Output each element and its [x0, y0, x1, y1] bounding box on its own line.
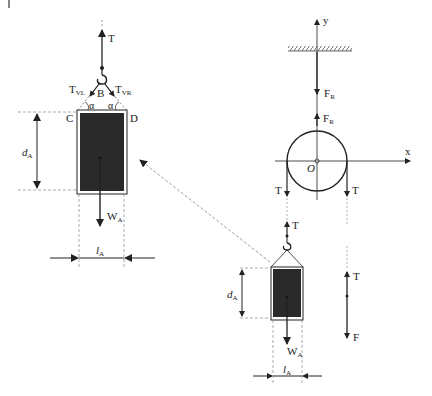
label-load-tension: T	[292, 219, 299, 231]
label-load-weight: WA	[287, 345, 302, 359]
label-width: lA	[96, 244, 104, 258]
ceiling-support	[288, 46, 352, 51]
free-body-diagram: T B TVL TVR α α C D WA dA lA	[0, 0, 432, 396]
label-tvl: TVL	[69, 83, 85, 97]
label-tvr: TVR	[115, 83, 132, 97]
label-C: C	[66, 112, 73, 124]
label-x-axis: x	[405, 145, 411, 157]
load-hook-icon	[283, 243, 290, 250]
label-reaction-down: FR	[324, 87, 335, 101]
label-D: D	[130, 112, 138, 124]
left-detail: T B TVL TVR α α C D WA dA lA	[18, 20, 155, 268]
block-A	[80, 113, 124, 191]
hanging-load: T WA dA lA	[227, 219, 322, 384]
label-alpha-left: α	[89, 100, 95, 111]
label-alpha-right: α	[108, 100, 114, 111]
detail-pointer-arrow	[140, 160, 270, 262]
label-B: B	[97, 87, 104, 99]
label-tension-left: T	[275, 184, 282, 196]
label-y-axis: y	[323, 14, 329, 26]
label-applied-force: F	[353, 331, 359, 343]
tension-vr-arrow	[105, 84, 114, 96]
free-rope-end: T F	[346, 270, 361, 343]
label-tension-right: T	[352, 184, 359, 196]
label-reaction-up: FR	[323, 112, 334, 126]
label-free-end-tension: T	[353, 270, 360, 282]
label-height: dA	[22, 146, 33, 160]
label-load-width: lA	[283, 363, 291, 377]
hook-icon	[97, 75, 106, 84]
label-weight: WA	[107, 210, 122, 224]
label-load-height: dA	[227, 288, 238, 302]
label-origin: O	[307, 162, 315, 174]
label-rope-tension: T	[108, 32, 115, 44]
